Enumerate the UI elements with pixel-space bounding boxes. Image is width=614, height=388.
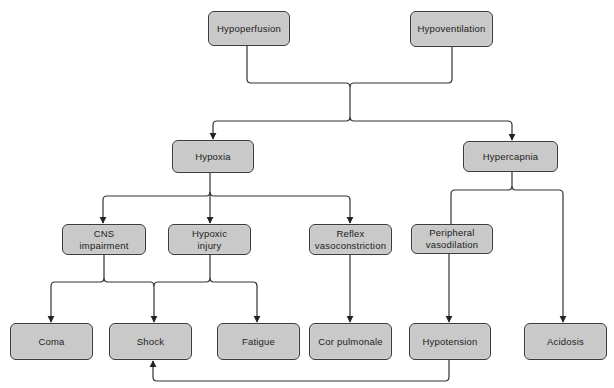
edge-to-hypercapnia	[350, 117, 512, 140]
edge-to-peripheral	[451, 186, 512, 224]
node-peripheral-vasodilation: Peripheral vasodilation	[411, 224, 493, 254]
edge-hypoxic-stem	[154, 255, 210, 286]
node-label: Acidosis	[547, 336, 584, 348]
node-label: CNS impairment	[80, 228, 129, 252]
node-label: Hypercapnia	[483, 151, 539, 163]
node-cns-impairment: CNS impairment	[62, 224, 146, 255]
node-coma: Coma	[10, 323, 93, 360]
node-reflex-vasoconstriction: Reflex vasoconstriction	[309, 224, 392, 255]
node-hypoventilation: Hypoventilation	[410, 11, 493, 47]
node-label: Cor pulmonale	[318, 336, 382, 348]
node-label: Peripheral vasodilation	[426, 227, 479, 251]
node-label: Hypoventilation	[418, 23, 486, 35]
edge-hypoperfusion	[247, 46, 350, 87]
node-label: Hypoxia	[195, 151, 231, 163]
node-label: Hypoperfusion	[217, 23, 281, 35]
node-hypoperfusion: Hypoperfusion	[208, 11, 290, 46]
edge-to-acidosis	[512, 186, 563, 322]
edge-hypotension-to-shock	[153, 360, 449, 381]
edge-hypoxic-to-fatigue	[210, 278, 257, 322]
node-acidosis: Acidosis	[524, 323, 607, 360]
edge-hypoventilation	[350, 47, 452, 87]
node-label: Fatigue	[242, 336, 275, 348]
node-hypoxia: Hypoxia	[172, 140, 254, 173]
edge-to-hypoxia	[213, 117, 350, 139]
node-hypotension: Hypotension	[409, 323, 491, 360]
edge-cns-stem	[51, 255, 104, 322]
edge-to-cns	[103, 192, 210, 223]
node-label: Reflex vasoconstriction	[315, 228, 386, 252]
node-label: Shock	[137, 336, 164, 348]
edge-to-reflex	[210, 192, 350, 223]
edge-cns-to-shock	[104, 278, 154, 322]
node-shock: Shock	[109, 323, 192, 360]
node-fatigue: Fatigue	[217, 323, 300, 360]
node-cor-pulmonale: Cor pulmonale	[309, 323, 392, 360]
node-hypercapnia: Hypercapnia	[463, 141, 558, 172]
node-hypoxic-injury: Hypoxic injury	[168, 224, 251, 255]
node-label: Hypoxic injury	[192, 228, 227, 252]
node-label: Coma	[38, 336, 64, 348]
node-label: Hypotension	[422, 336, 477, 348]
